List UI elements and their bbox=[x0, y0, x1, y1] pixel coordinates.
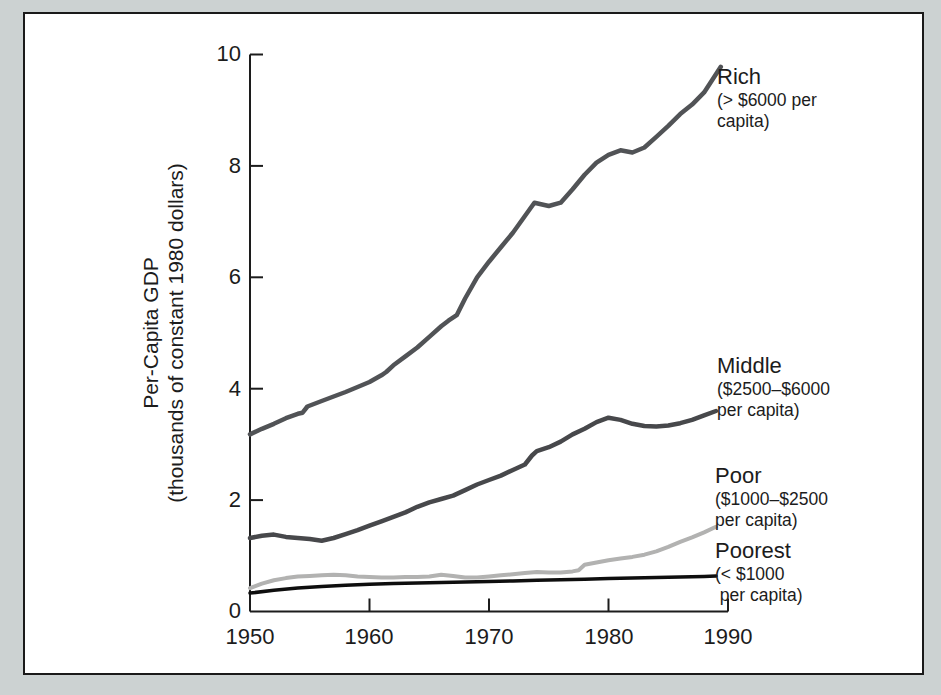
series-label-poor: Poor ($1000–$2500 per capita) bbox=[715, 462, 828, 531]
series-qualifier-rich-line1: (> $6000 per bbox=[717, 90, 817, 111]
series-qualifier-poorest-line2: per capita) bbox=[715, 585, 803, 606]
x-tick-label-1950: 1950 bbox=[215, 624, 285, 650]
series-qualifier-middle-line2: per capita) bbox=[717, 400, 830, 421]
line-middle bbox=[250, 411, 716, 541]
y-axis-title-line1: Per-Capita GDP bbox=[138, 113, 163, 553]
series-qualifier-poorest-line1: (< $1000 bbox=[715, 564, 803, 585]
y-tick-label-2: 2 bbox=[181, 487, 241, 513]
x-tick-label-1990: 1990 bbox=[693, 624, 763, 650]
series-name-poorest: Poorest bbox=[715, 537, 803, 564]
figure-background: { "figure": { "background_color": "#ccd2… bbox=[0, 0, 941, 695]
series-name-rich: Rich bbox=[717, 63, 817, 90]
x-tick-label-1970: 1970 bbox=[454, 624, 524, 650]
y-tick-label-8: 8 bbox=[181, 153, 241, 179]
series-name-poor: Poor bbox=[715, 462, 828, 489]
y-tick-label-10: 10 bbox=[181, 41, 241, 67]
y-tick-label-6: 6 bbox=[181, 264, 241, 290]
series-label-poorest: Poorest (< $1000 per capita) bbox=[715, 537, 803, 606]
series-label-rich: Rich (> $6000 per capita) bbox=[717, 63, 817, 132]
series-qualifier-rich-line2: capita) bbox=[717, 111, 817, 132]
y-tick-label-0: 0 bbox=[181, 598, 241, 624]
series-label-middle: Middle ($2500–$6000 per capita) bbox=[717, 352, 830, 421]
y-tick-label-4: 4 bbox=[181, 376, 241, 402]
series-qualifier-poor-line2: per capita) bbox=[715, 510, 828, 531]
line-rich bbox=[250, 67, 721, 435]
series-qualifier-poor-line1: ($1000–$2500 bbox=[715, 489, 828, 510]
series-name-middle: Middle bbox=[717, 352, 830, 379]
x-tick-label-1980: 1980 bbox=[574, 624, 644, 650]
series-qualifier-middle-line1: ($2500–$6000 bbox=[717, 379, 830, 400]
x-tick-label-1960: 1960 bbox=[334, 624, 404, 650]
